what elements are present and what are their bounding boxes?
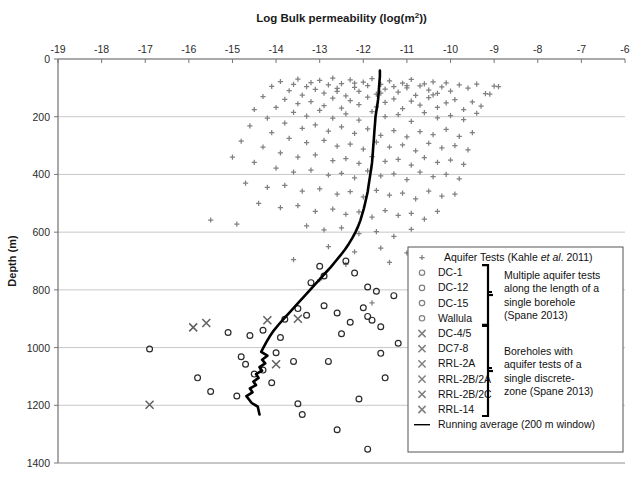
circle-marker [243, 361, 249, 367]
series-dc-15 [147, 327, 297, 364]
circle-marker [299, 412, 305, 418]
x-marker [202, 319, 210, 327]
circle-marker [208, 389, 214, 395]
series-rrl-2a [263, 316, 271, 324]
circle-marker [147, 346, 153, 352]
plus-marker [348, 189, 353, 194]
legend-group-desc-line: single discrete- [504, 372, 575, 384]
xtick-label--17: -17 [138, 43, 153, 55]
plus-marker [391, 84, 396, 89]
plus-marker [356, 209, 361, 214]
plus-marker [365, 94, 370, 99]
circle-marker [247, 333, 253, 339]
legend-label: RRL-2B/2C [438, 388, 492, 400]
plus-marker [247, 123, 252, 128]
plus-marker [287, 136, 292, 141]
xtick-label--19: -19 [50, 43, 65, 55]
plus-marker [409, 119, 414, 124]
plus-marker [339, 124, 344, 129]
legend-item-aquifer-tests-kahle-et-al-2011-[interactable]: Aquifer Tests (Kahle et al. 2011) [419, 251, 592, 263]
xtick-label--9: -9 [489, 43, 498, 55]
plus-marker [383, 100, 388, 105]
x-marker [146, 401, 154, 409]
circle-marker [373, 288, 379, 294]
plus-marker [409, 99, 414, 104]
legend: Aquifer Tests (Kahle et al. 2011)DC-1DC-… [408, 247, 623, 452]
circle-marker [225, 330, 231, 336]
plus-marker [300, 126, 305, 131]
circle-marker [273, 350, 279, 356]
plus-marker [369, 215, 374, 220]
plus-marker [313, 87, 318, 92]
plus-marker [339, 171, 344, 176]
plus-marker [439, 145, 444, 150]
plus-marker [439, 84, 444, 89]
xtick-label--10: -10 [443, 43, 458, 55]
plus-marker [295, 155, 300, 160]
plus-marker [335, 191, 340, 196]
legend-label: DC-1 [438, 266, 463, 278]
xtick-label--14: -14 [268, 43, 283, 55]
series-rrl-14 [146, 401, 154, 409]
plus-marker [448, 113, 453, 118]
plus-marker [444, 172, 449, 177]
legend-group-desc-line: Multiple aquifer tests [504, 269, 600, 281]
xtick-label--13: -13 [312, 43, 327, 55]
circle-marker [360, 305, 366, 311]
plus-marker [422, 110, 427, 115]
plus-marker [391, 171, 396, 176]
plus-marker [317, 186, 322, 191]
legend-label: DC-15 [438, 297, 469, 309]
plus-marker [474, 111, 479, 116]
legend-group-desc-line: single borehole [504, 296, 575, 308]
plus-marker [313, 122, 318, 127]
x-marker [263, 316, 271, 324]
plus-marker [308, 168, 313, 173]
plus-marker [413, 93, 418, 98]
plus-marker [308, 80, 313, 85]
plus-marker [326, 129, 331, 134]
xtick-label--11: -11 [400, 43, 415, 55]
plus-marker [448, 88, 453, 93]
y-axis-label: Depth (m) [6, 235, 18, 287]
x-marker [294, 315, 302, 323]
legend-label: DC7-8 [438, 342, 469, 354]
plus-marker [430, 132, 435, 137]
circle-marker [278, 335, 284, 341]
plus-marker [369, 109, 374, 114]
running-average-line [246, 71, 380, 415]
plus-marker [435, 209, 440, 214]
plus-marker [282, 183, 287, 188]
legend-group-desc-line: zone (Spane 2013) [504, 385, 593, 397]
plus-marker [243, 180, 248, 185]
plus-marker [304, 140, 309, 145]
running-average-polyline [246, 71, 380, 415]
plus-marker [417, 103, 422, 108]
series-dc-12 [282, 303, 384, 330]
plus-marker [378, 245, 383, 250]
plus-marker [461, 107, 466, 112]
plus-marker [461, 117, 466, 122]
series-rrl-2b-2a [294, 315, 302, 323]
legend-label: RRL-14 [438, 403, 474, 415]
legend-item-running-average-200-m-window-[interactable]: Running average (200 m window) [414, 418, 595, 430]
xtick-label--12: -12 [356, 43, 371, 55]
circle-marker [339, 331, 345, 337]
plus-marker [356, 89, 361, 94]
xtick-label--16: -16 [181, 43, 196, 55]
chart-title: Log Bulk permeability (log(m2)) [256, 11, 427, 25]
circle-marker [395, 340, 401, 346]
plus-marker [352, 81, 357, 86]
plus-marker [383, 208, 388, 213]
plus-marker [339, 81, 344, 86]
plus-marker [426, 95, 431, 100]
plus-marker [260, 94, 265, 99]
circle-marker [317, 263, 323, 269]
circle-marker [356, 396, 362, 402]
plus-marker [356, 102, 361, 107]
circle-marker [347, 319, 353, 325]
plus-marker [330, 206, 335, 211]
permeability-depth-scatter-chart: -19-18-17-16-15-14-13-12-11-10-9-8-7-602… [0, 0, 642, 483]
x-marker [189, 323, 197, 331]
plus-marker [396, 157, 401, 162]
